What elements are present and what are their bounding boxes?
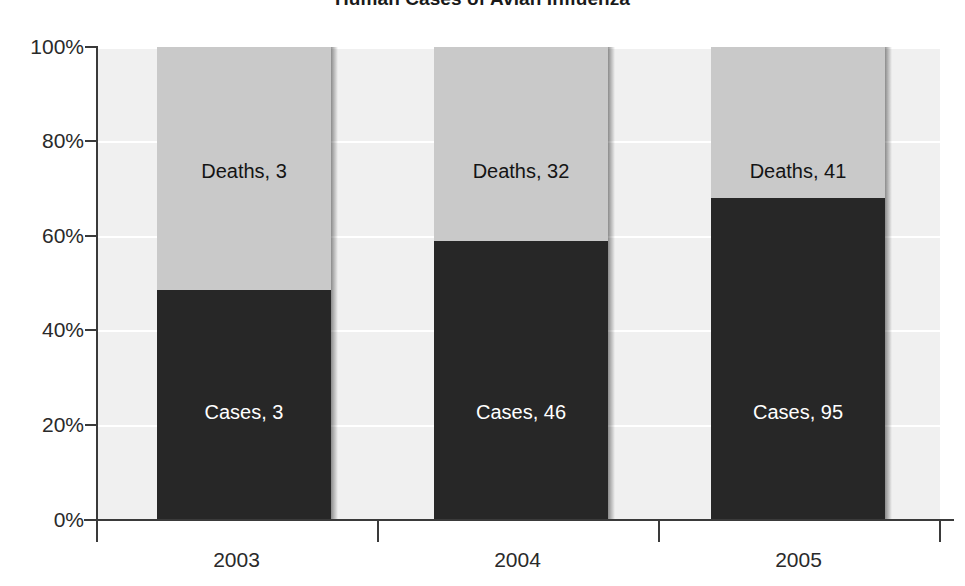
bar-segment-deaths-2004[interactable] bbox=[434, 47, 608, 241]
x-tick-2 bbox=[658, 520, 660, 542]
plot-area: Deaths, 3 Cases, 3 Deaths, 32 Cases, 46 … bbox=[97, 47, 940, 519]
bar-label-deaths-2004: Deaths, 32 bbox=[434, 161, 608, 181]
bar-segment-cases-2004[interactable] bbox=[434, 241, 608, 519]
x-tick-start bbox=[96, 520, 98, 542]
y-tick-label-60: 60% bbox=[0, 225, 84, 246]
bar-group-2005[interactable]: Deaths, 41 Cases, 95 bbox=[711, 47, 885, 519]
bar-label-cases-2005: Cases, 95 bbox=[711, 402, 885, 422]
y-tick-80 bbox=[85, 140, 97, 142]
y-tick-40 bbox=[85, 329, 97, 331]
y-tick-label-100: 100% bbox=[0, 36, 84, 57]
x-tick-label-2005: 2005 bbox=[658, 549, 939, 570]
bar-label-cases-2004: Cases, 46 bbox=[434, 402, 608, 422]
y-axis-labels: 100% 80% 60% 40% 20% 0% bbox=[0, 0, 84, 586]
x-tick-end bbox=[939, 520, 941, 542]
x-tick-1 bbox=[377, 520, 379, 542]
y-tick-label-80: 80% bbox=[0, 130, 84, 151]
bar-group-2003[interactable]: Deaths, 3 Cases, 3 bbox=[157, 47, 331, 519]
y-tick-60 bbox=[85, 235, 97, 237]
page-title: Human Cases of Avian Influenza bbox=[0, 0, 965, 10]
bar-shadow-2003 bbox=[331, 47, 338, 519]
y-tick-20 bbox=[85, 424, 97, 426]
y-tick-label-40: 40% bbox=[0, 319, 84, 340]
y-tick-100 bbox=[85, 46, 97, 48]
x-tick-label-2003: 2003 bbox=[96, 549, 377, 570]
x-tick-label-2004: 2004 bbox=[377, 549, 658, 570]
bar-shadow-2005 bbox=[885, 47, 892, 519]
bar-label-deaths-2005: Deaths, 41 bbox=[711, 161, 885, 181]
bar-shadow-2004 bbox=[608, 47, 615, 519]
bar-group-2004[interactable]: Deaths, 32 Cases, 46 bbox=[434, 47, 608, 519]
bar-label-cases-2003: Cases, 3 bbox=[157, 402, 331, 422]
x-axis-line bbox=[84, 519, 954, 521]
chart-container: Human Cases of Avian Influenza Deaths, 3… bbox=[0, 0, 965, 586]
bar-label-deaths-2003: Deaths, 3 bbox=[157, 161, 331, 181]
y-axis-line bbox=[96, 46, 98, 521]
y-tick-label-0: 0% bbox=[0, 509, 84, 530]
y-tick-label-20: 20% bbox=[0, 414, 84, 435]
bar-segment-cases-2005[interactable] bbox=[711, 198, 885, 519]
